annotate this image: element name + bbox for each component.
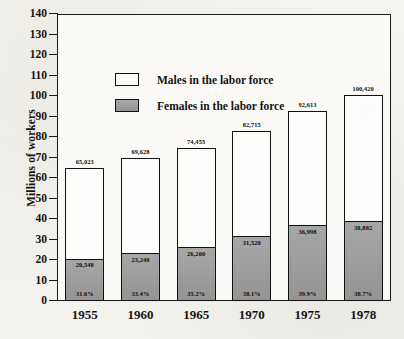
bar-female-value-label: 26,200 [177, 250, 216, 257]
bar-total-label: 65,023 [55, 158, 115, 165]
x-axis-label-1978: 1978 [333, 307, 393, 323]
y-axis-tick-label: 110 [14, 70, 47, 82]
y-axis-tick-label: 40 [14, 213, 47, 225]
legend-swatch-males-icon [115, 73, 139, 86]
y-axis-tick-label: 30 [14, 234, 47, 246]
y-axis-tick-label: 100 [14, 90, 47, 102]
bar-total-label: 74,455 [166, 138, 226, 145]
y-axis-tick-label: 130 [14, 29, 47, 41]
y-axis-tick-label: 80 [14, 131, 47, 143]
y-axis-tick-label: 140 [14, 8, 47, 20]
y-axis-tick [49, 95, 58, 96]
y-axis-tick [49, 177, 58, 178]
y-axis-tick-label: 0 [14, 295, 47, 307]
bar-female-value-label: 38,882 [344, 224, 383, 231]
bar-female-share-label: 38.1% [232, 290, 271, 297]
y-axis-tick [49, 198, 58, 199]
y-axis-tick-label: 50 [14, 193, 47, 205]
x-axis-label-1955: 1955 [55, 307, 115, 323]
x-axis-label-1975: 1975 [278, 307, 338, 323]
y-axis-tick-label: 60 [14, 172, 47, 184]
y-axis-tick-label: 10 [14, 275, 47, 287]
y-axis-tick [49, 300, 58, 301]
legend-label-males: Males in the labor force [157, 74, 273, 86]
bar-female-value-label: 31,520 [232, 239, 271, 246]
y-axis-tick [49, 13, 58, 14]
legend-item-females: Females in the labor force [115, 99, 284, 112]
chart-page: Millions of workers 14013012011010090807… [0, 0, 404, 339]
y-axis-tick [49, 218, 58, 219]
bar-female-share-label: 35.2% [177, 290, 216, 297]
y-axis-tick-label: 120 [14, 49, 47, 61]
bar-female-share-label: 33.4% [121, 290, 160, 297]
y-axis-tick [49, 75, 58, 76]
legend-swatch-females-icon [115, 99, 139, 112]
y-axis-tick [49, 259, 58, 260]
y-axis-tick [49, 280, 58, 281]
y-axis-tick-label: 20 [14, 254, 47, 266]
x-axis-label-1970: 1970 [222, 307, 282, 323]
x-axis-label-1965: 1965 [166, 307, 226, 323]
y-axis-tick [49, 136, 58, 137]
bar-total-label: 69,628 [111, 148, 171, 155]
bar-total-label: 100,420 [333, 85, 393, 92]
bar-total-label: 82,715 [222, 121, 282, 128]
bar-female-share-label: 31.6% [65, 290, 104, 297]
legend-item-males: Males in the labor force [115, 73, 273, 86]
y-axis-tick [49, 116, 58, 117]
y-axis-tick [49, 239, 58, 240]
y-axis-tick-label: 90 [14, 111, 47, 123]
bar-female-value-label: 23,240 [121, 256, 160, 263]
bar-female-value-label: 36,998 [288, 228, 327, 235]
y-axis-tick-label: 70 [14, 152, 47, 164]
bar-female-share-label: 39.9% [288, 290, 327, 297]
y-axis-tick [49, 54, 58, 55]
x-axis-label-1960: 1960 [111, 307, 171, 323]
bar-female-share-label: 38.7% [344, 290, 383, 297]
legend-label-females: Females in the labor force [157, 100, 284, 112]
bar-total-label: 92,613 [278, 101, 338, 108]
y-axis-tick [49, 34, 58, 35]
bar-female-value-label: 20,548 [65, 261, 104, 268]
